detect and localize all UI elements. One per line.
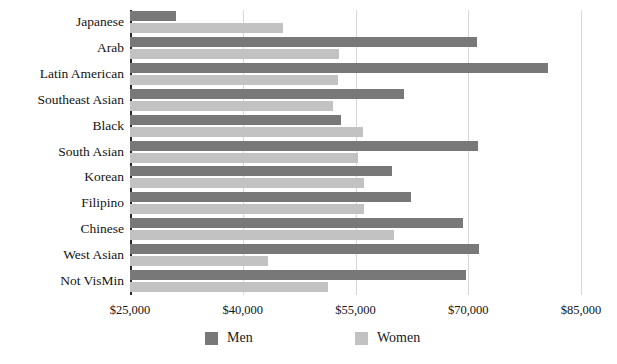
bar-women-arab (130, 49, 339, 59)
y-axis-label-west-asian: West Asian (0, 248, 124, 262)
x-axis-tick-25000: $25,000 (110, 303, 151, 318)
bar-men-arab (130, 37, 477, 47)
bar-group (130, 141, 581, 167)
y-axis-label-korean: Korean (0, 170, 124, 184)
bar-group (130, 218, 581, 244)
y-axis-category-labels: JapaneseArabLatin AmericanSoutheast Asia… (0, 10, 124, 295)
bar-women-japanese (130, 23, 283, 33)
bar-group (130, 244, 581, 270)
bar-men-japanese (130, 11, 176, 21)
y-axis-label-not-vismin: Not VisMin (0, 274, 124, 288)
y-axis-label-arab: Arab (0, 41, 124, 55)
bar-men-filipino (130, 192, 411, 202)
legend-label: Men (227, 330, 253, 346)
y-axis-label-black: Black (0, 119, 124, 133)
plot-area (130, 10, 581, 295)
x-axis-tick-55000: $55,000 (335, 303, 376, 318)
x-axis-tick-40000: $40,000 (222, 303, 263, 318)
bar-women-korean (130, 178, 364, 188)
bar-chart: JapaneseArabLatin AmericanSoutheast Asia… (0, 0, 617, 364)
y-axis-label-latin-american: Latin American (0, 67, 124, 81)
bar-women-latin-american (130, 75, 338, 85)
bar-group (130, 37, 581, 63)
bar-men-black (130, 115, 341, 125)
bar-group (130, 115, 581, 141)
y-axis-label-chinese: Chinese (0, 222, 124, 236)
women-color-swatch (355, 332, 368, 345)
bar-group (130, 11, 581, 37)
legend-label: Women (377, 330, 420, 346)
bar-group (130, 270, 581, 296)
bar-men-west-asian (130, 244, 479, 254)
bar-men-latin-american (130, 63, 548, 73)
x-axis-tick-70000: $70,000 (448, 303, 489, 318)
y-axis-label-south-asian: South Asian (0, 145, 124, 159)
bar-men-korean (130, 166, 392, 176)
bar-women-southeast-asian (130, 101, 333, 111)
bar-group (130, 166, 581, 192)
x-axis-tick-labels: $25,000$40,000$55,000$70,000$85,000 (0, 303, 617, 323)
bar-women-black (130, 127, 363, 137)
y-axis-label-filipino: Filipino (0, 196, 124, 210)
bar-men-south-asian (130, 141, 478, 151)
bar-group (130, 89, 581, 115)
bar-women-filipino (130, 204, 364, 214)
chart-legend: MenWomen (0, 330, 617, 356)
legend-item-men[interactable]: Men (205, 330, 253, 346)
legend-item-women[interactable]: Women (355, 330, 420, 346)
bar-group (130, 192, 581, 218)
gridline-85000 (581, 10, 582, 295)
bar-men-not-vismin (130, 270, 466, 280)
bar-women-chinese (130, 230, 394, 240)
men-color-swatch (205, 332, 218, 345)
y-axis-label-japanese: Japanese (0, 15, 124, 29)
bar-women-south-asian (130, 153, 358, 163)
bar-group (130, 63, 581, 89)
bar-men-southeast-asian (130, 89, 404, 99)
bar-men-chinese (130, 218, 463, 228)
bar-rows (130, 10, 581, 295)
y-axis-label-southeast-asian: Southeast Asian (0, 93, 124, 107)
bar-women-west-asian (130, 256, 268, 266)
bar-women-not-vismin (130, 282, 328, 292)
x-axis-tick-85000: $85,000 (561, 303, 602, 318)
